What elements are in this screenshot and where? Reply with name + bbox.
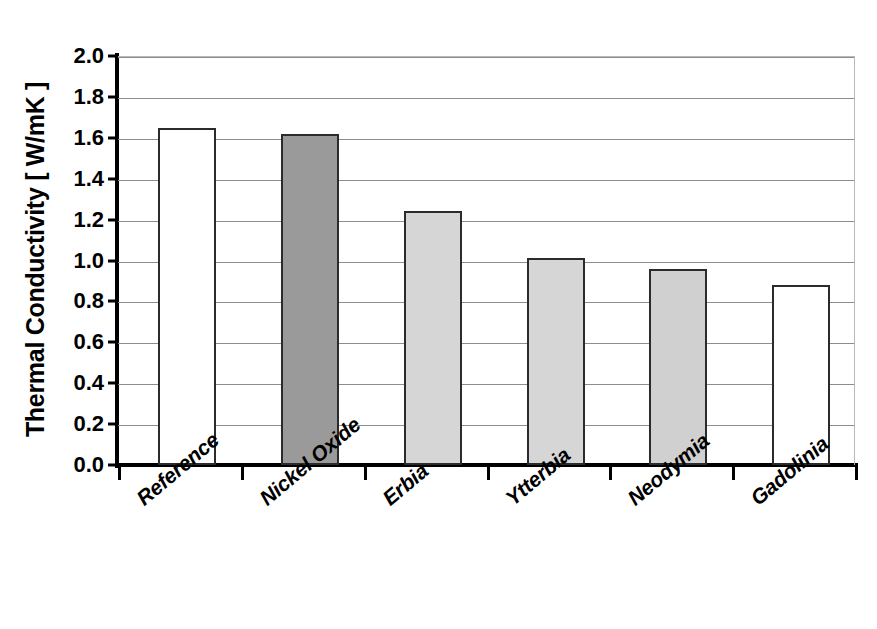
y-tick-label: 1.6: [48, 127, 104, 149]
plot-area: [118, 56, 855, 465]
y-tick-label: 0.6: [48, 331, 104, 353]
gridline: [118, 57, 854, 58]
y-tick-label: 0.2: [48, 413, 104, 435]
gridline: [118, 302, 854, 303]
gridline: [118, 180, 854, 181]
gridline: [118, 425, 854, 426]
bar: [404, 211, 462, 465]
y-tick-label: 0.0: [48, 454, 104, 476]
x-tick-mark: [609, 467, 612, 480]
bar: [281, 134, 339, 465]
x-tick-mark: [855, 467, 858, 480]
y-tick-label: 1.0: [48, 250, 104, 272]
y-tick-label: 1.8: [48, 86, 104, 108]
x-tick-mark: [732, 467, 735, 480]
y-tick-label: 2.0: [48, 45, 104, 67]
y-tick-label: 0.8: [48, 290, 104, 312]
gridline: [118, 139, 854, 140]
bar: [158, 128, 216, 465]
x-tick-mark: [487, 467, 490, 480]
bar-chart: Thermal Conductivity [ W/mK ] 2.01.81.61…: [0, 0, 877, 629]
x-tick-mark: [118, 467, 121, 480]
gridline: [118, 384, 854, 385]
y-tick-label: 1.4: [48, 168, 104, 190]
x-tick-mark: [241, 467, 244, 480]
y-tick-label: 1.2: [48, 209, 104, 231]
bar: [527, 258, 585, 465]
gridline: [118, 221, 854, 222]
gridline: [118, 343, 854, 344]
y-tick-label: 0.4: [48, 372, 104, 394]
x-tick-mark: [364, 467, 367, 480]
gridline: [118, 262, 854, 263]
y-axis-tick-labels: 2.01.81.61.41.21.00.80.60.40.20.0: [48, 0, 104, 629]
gridline: [118, 98, 854, 99]
y-axis-title: Thermal Conductivity [ W/mK ]: [21, 40, 50, 480]
